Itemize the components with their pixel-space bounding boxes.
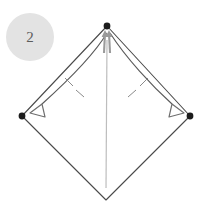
step-number-label: 2 (26, 30, 34, 45)
vertex-dot-left (19, 113, 26, 120)
step-number-badge: 2 (6, 13, 54, 61)
vertex-dot-right (187, 113, 194, 120)
vertex-dot-top (104, 23, 111, 30)
origami-step-figure: 2 (0, 0, 205, 207)
